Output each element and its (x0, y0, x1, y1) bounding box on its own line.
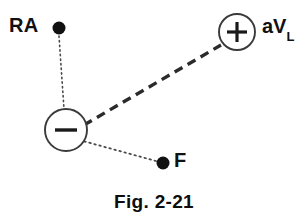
connection-ra-to-negative (59, 36, 64, 109)
connection-f-to-negative (83, 141, 156, 161)
connection-negative-to-positive (84, 45, 221, 125)
ra-electrode-dot (53, 22, 66, 35)
avl-label-subscript: L (286, 29, 294, 44)
avl-lead-label: aVL (262, 16, 294, 40)
figure-caption: Fig. 2-21 (0, 192, 308, 211)
f-electrode-label: F (174, 150, 186, 170)
avl-label-main: aV (262, 15, 286, 37)
ra-electrode-label: RA (9, 15, 38, 35)
figure-container: RA F aVL Fig. 2-21 (0, 0, 308, 223)
f-electrode-dot (157, 157, 170, 170)
